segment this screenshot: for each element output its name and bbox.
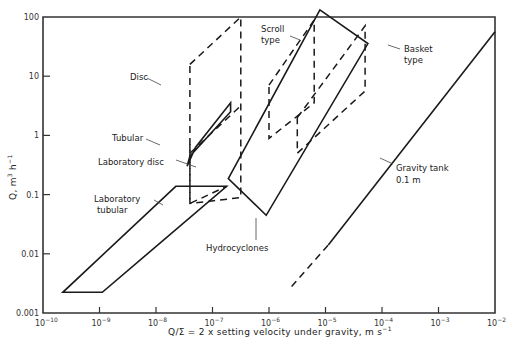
annotation-label: type bbox=[261, 35, 280, 45]
annotations-group: DiscTubularLaboratory discLaboratorytubu… bbox=[94, 24, 449, 253]
annotation-label: Basket bbox=[404, 44, 433, 54]
leader-line bbox=[154, 200, 163, 205]
annotation-label: Scroll bbox=[261, 24, 284, 34]
y-tick-label: 0.01 bbox=[21, 250, 39, 259]
annotation-label: tubular bbox=[97, 205, 128, 215]
annotation-label: Disc bbox=[130, 72, 148, 82]
leader-line bbox=[290, 36, 300, 40]
y-tick-label: 1 bbox=[34, 131, 39, 140]
region-hydrocyclones bbox=[228, 10, 368, 215]
leader-line bbox=[388, 45, 400, 49]
leader-line bbox=[176, 160, 196, 167]
annotation-label: 0.1 m bbox=[396, 175, 421, 185]
region-basket-type bbox=[297, 26, 365, 153]
region-tubular bbox=[187, 103, 231, 166]
y-tick-label: 0.001 bbox=[16, 309, 39, 318]
annotation-label: Laboratory bbox=[94, 194, 140, 204]
y-tick-label: 100 bbox=[24, 13, 39, 22]
y-tick-label: 10 bbox=[29, 72, 39, 81]
x-tick-label: 10−8 bbox=[148, 316, 167, 328]
leader-line bbox=[380, 158, 393, 164]
region-gravity-tank-0-1-m-extension bbox=[292, 245, 329, 287]
y-tick-label: 0.1 bbox=[26, 191, 39, 200]
region-disc bbox=[190, 17, 241, 204]
chart-canvas: 10−1010−910−810−710−610−510−410−310−20.0… bbox=[0, 0, 515, 353]
x-tick-label: 10−3 bbox=[431, 316, 450, 328]
annotation-label: Gravity tank bbox=[396, 163, 449, 173]
x-tick-label: 10−2 bbox=[487, 316, 506, 328]
y-axis-title: Q, m3 h−1 bbox=[6, 154, 18, 200]
annotation-label: Hydrocyclones bbox=[206, 243, 269, 253]
region-laboratory-disc bbox=[190, 144, 227, 203]
annotation-label: Tubular bbox=[111, 133, 144, 143]
leader-line bbox=[146, 139, 160, 145]
x-axis-title: Q/Σ = 2 x setting velocity under gravity… bbox=[168, 325, 392, 337]
annotation-label: type bbox=[404, 55, 423, 65]
leader-line bbox=[147, 78, 161, 85]
annotation-label: Laboratory disc bbox=[98, 157, 164, 167]
x-tick-label: 10−9 bbox=[92, 316, 111, 328]
